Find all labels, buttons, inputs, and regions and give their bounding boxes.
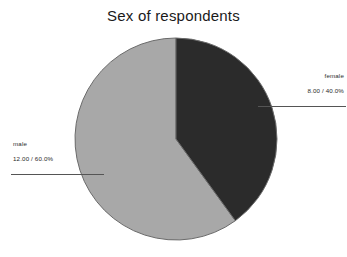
- slice-label-female-value: 8.00 / 40.0%: [296, 87, 344, 94]
- pie-chart-figure: Sex of respondents female 8.00 / 40.0% m…: [0, 0, 347, 257]
- leader-line-male: [11, 174, 104, 175]
- leader-line-female: [258, 106, 346, 107]
- slice-label-male: male 12.00 / 60.0%: [13, 140, 73, 162]
- slice-label-male-value: 12.00 / 60.0%: [13, 155, 73, 162]
- pie-chart-canvas: [0, 0, 347, 257]
- slice-label-male-category: male: [13, 140, 73, 147]
- slice-label-female-category: female: [296, 72, 344, 79]
- slice-label-female: female 8.00 / 40.0%: [296, 72, 344, 94]
